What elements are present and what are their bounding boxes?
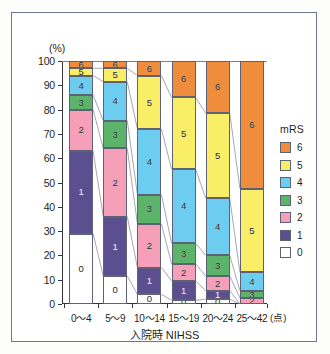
legend-item-mrs-3[interactable]: 3 <box>280 195 304 206</box>
legend-swatch-icon <box>280 247 291 258</box>
legend-swatch-icon <box>280 177 291 188</box>
x-tick-label: 5～9 <box>105 310 125 325</box>
bar-segment-mrs-3: 3 <box>137 195 161 224</box>
bar-segment-mrs-1: 1 <box>137 268 161 295</box>
connector-line <box>127 68 137 75</box>
connector-line <box>196 97 206 113</box>
bar-segment-label: 4 <box>249 277 254 287</box>
bar-segment-mrs-6: 6 <box>240 61 264 189</box>
legend-item-mrs-5[interactable]: 5 <box>280 160 304 171</box>
bar-segment-mrs-5: 5 <box>69 68 93 75</box>
y-axis-line <box>62 61 63 304</box>
bar-10～14: 0123456 <box>137 61 161 304</box>
connector-line <box>196 243 206 255</box>
bar-segment-mrs-3: 3 <box>69 95 93 110</box>
legend-item-mrs-6[interactable]: 6 <box>280 142 304 153</box>
bar-segment-label: 2 <box>249 298 254 304</box>
bar-segment-mrs-0: 0 <box>103 276 127 304</box>
bar-segment-mrs-0: 0 <box>137 294 161 304</box>
bar-segment-label: 5 <box>215 151 220 161</box>
x-tick-label: 25～42 <box>237 310 268 325</box>
bar-segment-mrs-5: 5 <box>172 97 196 169</box>
bar-segment-mrs-4: 4 <box>69 76 93 95</box>
bar-segment-mrs-0: 0 <box>206 299 230 304</box>
bar-segment-label: 2 <box>147 241 152 251</box>
bar-segment-mrs-2: 2 <box>103 148 127 216</box>
legend-item-mrs-0[interactable]: 0 <box>280 247 304 258</box>
bar-segment-mrs-0: 0 <box>69 234 93 304</box>
bar-segment-label: 3 <box>78 98 83 108</box>
bar-segment-mrs-1: 1 <box>172 281 196 300</box>
bar-segment-label: 1 <box>78 187 83 197</box>
x-tick <box>167 304 168 308</box>
connector-line <box>196 264 206 276</box>
bar-segment-mrs-0: 0 <box>172 300 196 304</box>
legend-swatch-icon <box>280 212 291 223</box>
connector-line <box>230 255 240 290</box>
x-tick <box>235 304 236 308</box>
bar-segment-mrs-4: 4 <box>206 198 230 255</box>
bar-segment-mrs-3: 3 <box>103 121 127 149</box>
bar-segment-mrs-4: 4 <box>137 129 161 195</box>
bar-segment-label: 5 <box>78 68 83 75</box>
bar-0～4: 0123456 <box>69 61 93 304</box>
connector-line <box>127 148 137 223</box>
bar-segment-label: 2 <box>181 268 186 278</box>
legend: mRS 6543210 <box>280 123 304 265</box>
bar-segment-label: 4 <box>78 81 83 91</box>
legend-item-mrs-4[interactable]: 4 <box>280 177 304 188</box>
bar-20～24: 0123456 <box>206 61 230 304</box>
y-tick <box>58 158 62 159</box>
y-tick <box>58 183 62 184</box>
bar-segment-label: 2 <box>215 279 220 289</box>
figure-canvas: (%) 012345601234560123456012345601234562… <box>0 0 330 354</box>
connector-line <box>127 276 137 294</box>
y-tick-label: 0 <box>49 298 55 310</box>
connector-line <box>93 110 103 149</box>
bar-segment-mrs-2: 2 <box>206 276 230 291</box>
y-tick <box>58 255 62 256</box>
bar-segment-label: 3 <box>249 291 254 298</box>
bar-segment-label: 4 <box>147 157 152 167</box>
connector-line <box>127 82 137 129</box>
connector-line <box>127 217 137 268</box>
legend-item-label: 0 <box>297 247 303 258</box>
connector-line <box>161 294 171 300</box>
bar-segment-label: 5 <box>147 98 152 108</box>
y-tick-label: 20 <box>44 249 55 261</box>
bar-segment-label: 3 <box>215 261 220 271</box>
connector-line <box>161 129 171 169</box>
legend-item-mrs-2[interactable]: 2 <box>280 212 304 223</box>
legend-item-label: 4 <box>297 177 303 188</box>
y-tick-label: 80 <box>44 104 55 116</box>
legend-swatch-icon <box>280 160 291 171</box>
bar-segment-mrs-4: 4 <box>240 272 264 290</box>
bar-segment-mrs-6: 6 <box>206 61 230 113</box>
bar-segment-mrs-5: 5 <box>240 189 264 273</box>
bar-segment-label: 0 <box>78 264 83 274</box>
bar-segment-label: 5 <box>249 226 254 236</box>
bar-segment-label: 1 <box>181 286 186 296</box>
bar-segment-label: 0 <box>181 300 186 304</box>
x-tick <box>201 304 202 308</box>
y-tick <box>58 134 62 135</box>
bar-segment-mrs-5: 5 <box>103 68 127 81</box>
bar-segment-mrs-2: 2 <box>69 110 93 151</box>
bar-segment-mrs-1: 1 <box>206 291 230 300</box>
legend-item-label: 6 <box>297 142 303 153</box>
connector-line <box>93 76 103 82</box>
bar-segment-mrs-5: 5 <box>137 76 161 129</box>
bar-segment-label: 4 <box>215 222 220 232</box>
y-tick-label: 50 <box>44 177 55 189</box>
connector-line <box>161 268 171 281</box>
legend-swatch-icon <box>280 230 291 241</box>
connector-line <box>230 198 240 272</box>
y-tick-label: 60 <box>44 152 55 164</box>
bar-segment-label: 0 <box>215 299 220 304</box>
bar-segment-label: 6 <box>249 120 254 130</box>
bar-segment-label: 6 <box>78 61 83 68</box>
bar-segment-label: 2 <box>113 178 118 188</box>
x-tick-label: 15～19 <box>168 310 199 325</box>
legend-item-mrs-1[interactable]: 1 <box>280 230 304 241</box>
x-tick <box>132 304 133 308</box>
